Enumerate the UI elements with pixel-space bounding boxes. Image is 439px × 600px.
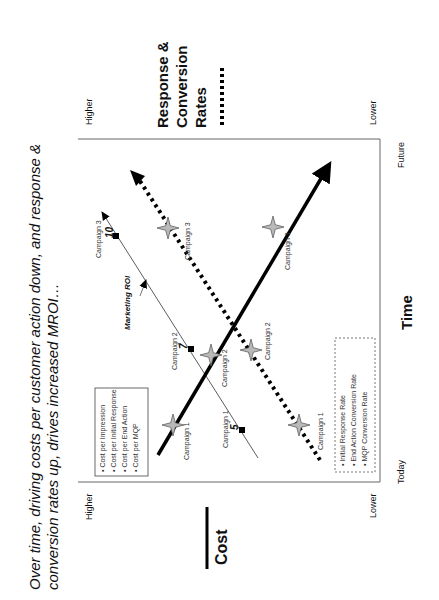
cost-campaign-3-label: Campaign 3 <box>284 232 292 270</box>
cost-campaign-3-star <box>262 216 284 238</box>
roi-campaign-2-label: Campaign 2 <box>171 332 179 370</box>
roi-label-pointer <box>140 280 146 296</box>
roi-value-10: 10 <box>104 226 115 238</box>
rates-legend: Response & Conversion Rates <box>154 41 209 128</box>
cost-item: • Cost per MQP <box>132 423 140 472</box>
cost-trend-line <box>158 170 326 455</box>
roi-campaign-3-label: Campaign 3 <box>95 220 103 258</box>
roi-value-7: 7 <box>178 343 189 349</box>
rates-campaign-3-label: Campaign 3 <box>184 222 192 260</box>
rates-lower-label: Lower <box>368 100 378 125</box>
rates-legend-line1: Response & <box>154 41 171 128</box>
cost-campaign-2-label: Campaign 2 <box>221 349 229 387</box>
rates-trend-arrowhead <box>130 170 145 186</box>
time-start-label: Today <box>396 459 406 484</box>
cost-campaign-2-star <box>200 344 222 366</box>
roi-value-5: 5 <box>229 424 240 430</box>
cost-legend-label: Cost <box>213 529 230 565</box>
rates-campaign-2-label: Campaign 2 <box>264 322 272 360</box>
rate-item: • Initial Response Rate <box>339 395 347 466</box>
cost-item: • Cost per Initial Response <box>110 389 118 472</box>
rate-item: • MQP Conversion Rate <box>361 392 369 466</box>
roi-campaign-1-label: Campaign 1 <box>222 410 230 448</box>
headline-line1: Over time, driving costs per customer ac… <box>26 144 43 590</box>
rates-higher-label: Higher <box>84 98 94 125</box>
cost-item: • Cost per Impression <box>99 405 107 472</box>
roi-label: Marketing ROI <box>123 275 132 330</box>
time-end-label: Future <box>396 142 406 168</box>
cost-item: • Cost per End Action <box>121 406 129 472</box>
cost-campaign-1-label: Campaign 1 <box>183 422 191 460</box>
cost-lower-label: Lower <box>368 493 378 518</box>
rotated-slide: Over time, driving costs per customer ac… <box>0 0 439 600</box>
rate-item: • End Action Conversion Rate <box>350 374 357 466</box>
time-axis-title: Time <box>398 295 415 330</box>
rates-legend-line3: Rates <box>192 87 209 128</box>
headline-line2: conversion rates up, drives increased MR… <box>44 283 61 590</box>
rates-trend-line <box>138 178 320 460</box>
rates-legend-line2: Conversion <box>173 45 190 128</box>
rates-campaign-1-label: Campaign 1 <box>317 412 325 450</box>
cost-higher-label: Higher <box>84 493 94 520</box>
